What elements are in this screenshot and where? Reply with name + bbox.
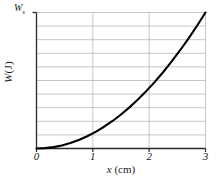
x-axis-title: x (cm)	[36, 163, 206, 175]
x-tick-label-1: 1	[84, 150, 102, 162]
horizontal-gridlines	[37, 26, 206, 135]
x-axis-title-unit: (cm)	[114, 163, 135, 175]
work-vs-displacement-chart: Ws W(J) x (cm) 0123	[0, 0, 216, 180]
x-tick-label-2: 2	[140, 150, 158, 162]
x-tick-label-3: 3	[197, 150, 215, 162]
x-tick-label-0: 0	[28, 150, 46, 162]
